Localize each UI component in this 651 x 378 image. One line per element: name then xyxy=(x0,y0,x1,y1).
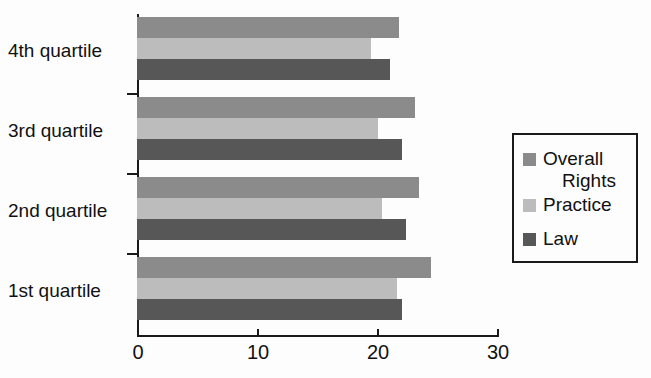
bar-2nd-quartile-overall-rights xyxy=(137,177,419,198)
bar-1st-quartile-overall-rights xyxy=(137,257,431,278)
legend-swatch-icon-law xyxy=(523,233,536,246)
legend-label-overall-rights: Overall Rights xyxy=(543,148,635,192)
y-axis-tick-1 xyxy=(127,93,137,95)
legend-label-law: Law xyxy=(543,228,635,250)
x-axis-tick-label-0: 0 xyxy=(108,341,168,364)
x-axis-tick-30 xyxy=(497,329,499,337)
bar-4th-quartile-law xyxy=(137,59,390,80)
bar-4th-quartile-overall-rights xyxy=(137,17,399,38)
legend-item-practice: Practice xyxy=(523,194,635,216)
legend-item-law: Law xyxy=(523,228,635,250)
y-axis-tick-3 xyxy=(127,253,137,255)
x-axis-tick-label-10: 10 xyxy=(228,341,288,364)
bar-3rd-quartile-practice xyxy=(137,118,378,139)
bar-1st-quartile-practice xyxy=(137,278,397,299)
chart-figure: 0 10 20 30 4th quartile 3rd quartile 2nd… xyxy=(0,0,651,378)
legend-item-overall-rights: Overall Rights xyxy=(523,148,635,192)
legend: Overall Rights Practice Law xyxy=(512,133,638,263)
bar-2nd-quartile-practice xyxy=(137,198,382,219)
plot-area xyxy=(137,14,497,336)
bar-4th-quartile-practice xyxy=(137,38,371,59)
legend-label-overall-rights-line2: Rights xyxy=(543,170,635,192)
legend-label-practice: Practice xyxy=(543,194,635,216)
legend-swatch-icon-overall-rights xyxy=(523,153,536,166)
x-axis-tick-label-20: 20 xyxy=(348,341,408,364)
bar-3rd-quartile-overall-rights xyxy=(137,97,415,118)
bar-2nd-quartile-law xyxy=(137,219,406,240)
bar-3rd-quartile-law xyxy=(137,139,402,160)
bar-1st-quartile-law xyxy=(137,299,402,320)
legend-swatch-icon-practice xyxy=(523,199,536,212)
legend-label-overall-rights-line1: Overall xyxy=(543,148,603,169)
x-axis-tick-label-30: 30 xyxy=(468,341,528,364)
y-axis-tick-2 xyxy=(127,173,137,175)
